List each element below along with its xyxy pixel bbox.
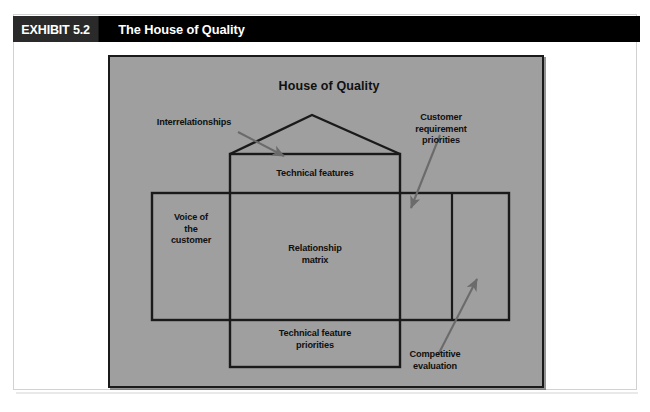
diagram-title: House of Quality [239,79,419,95]
exhibit-title: The House of Quality [105,16,245,42]
label-interrelationships: Interrelationships [146,117,242,129]
label-technical-features: Technical features [255,168,375,180]
label-voice-of-the-customer: Voice of the customer [151,212,231,247]
interrelationships-arrow [238,132,284,156]
page-frame-shadow [16,392,638,394]
label-competitive-evaluation: Competitive evaluation [388,349,482,372]
house-of-quality-diagram: House of Quality Interrelationships Tech… [108,55,544,388]
competitive-evaluation-arrow [438,279,477,355]
label-relationship-matrix: Relationship matrix [265,243,365,266]
exhibit-header-bar: EXHIBIT 5.2 The House of Quality [13,16,640,42]
roof-triangle [230,115,400,154]
exhibit-figure: EXHIBIT 5.2 The House of Quality House [0,0,650,412]
label-technical-feature-priorities: Technical feature priorities [255,328,375,351]
label-customer-requirement-priorities: Customer requirement priorities [394,112,488,147]
exhibit-number-label: EXHIBIT 5.2 [13,16,98,42]
